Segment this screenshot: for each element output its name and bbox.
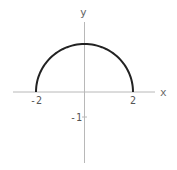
y-axis-label: y [80,6,87,19]
x-tick-label-2: 2 [130,95,136,106]
x-tick-label-neg2: -2 [30,95,42,106]
semicircle-plot: x y -2 2 -1 [0,0,177,170]
y-tick-label-neg1: -1 [70,112,82,123]
x-axis-label: x [160,86,167,99]
